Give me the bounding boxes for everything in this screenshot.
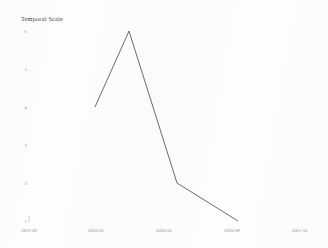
x-axis-tick-label: 2020-05 — [156, 228, 172, 233]
x-axis-tick-label: 2020-01 — [88, 228, 104, 233]
x-axis-tick-label: 2021-01 — [292, 228, 308, 233]
y-axis-tick-label: 3 — [19, 143, 27, 148]
y-axis-tick-label: 4 — [19, 105, 27, 110]
y-axis-tick-label: 2 — [19, 181, 27, 186]
x-axis-tick-label: 2019-09 — [21, 228, 37, 233]
y-axis-tick-label: 1 — [19, 219, 27, 224]
chart-container: Temporal Scale 2019-092020-012020-052020… — [0, 0, 328, 248]
y-axis-tick-label: 6 — [19, 29, 27, 34]
y-axis-tick-label: 5 — [19, 67, 27, 72]
plot-area — [0, 0, 328, 248]
data-series-line — [95, 31, 238, 221]
x-axis-tick-label: 2020-09 — [224, 228, 240, 233]
